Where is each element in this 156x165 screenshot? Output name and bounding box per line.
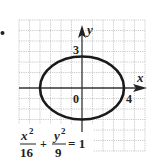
eq-y-exponent: 2 bbox=[61, 126, 66, 136]
eq-x-denominator: 16 bbox=[20, 145, 34, 160]
eq-y-denominator: 9 bbox=[55, 145, 62, 160]
eq-equals-one: = 1 bbox=[68, 136, 85, 151]
x-intercept-label: 4 bbox=[126, 92, 132, 106]
y-axis-label: y bbox=[85, 22, 93, 37]
bullet-marker bbox=[1, 31, 5, 35]
ellipse-diagram: y x 3 4 0 x 2 16 + y 2 9 = 1 bbox=[0, 0, 156, 165]
eq-x-exponent: 2 bbox=[29, 126, 34, 136]
eq-plus: + bbox=[40, 137, 47, 151]
origin-label: 0 bbox=[73, 92, 79, 106]
eq-x-numerator: x bbox=[20, 128, 28, 143]
eq-y-numerator: y bbox=[52, 128, 60, 143]
x-axis-label: x bbox=[136, 70, 144, 85]
y-intercept-label: 3 bbox=[73, 43, 79, 57]
